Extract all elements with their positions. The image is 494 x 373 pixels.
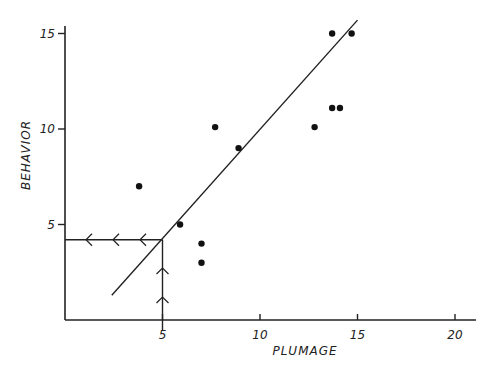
y-tick-label: 15 bbox=[40, 27, 55, 41]
y-axis-label: BEHAVIOR bbox=[19, 120, 33, 190]
data-point bbox=[235, 145, 241, 151]
data-point bbox=[329, 105, 335, 111]
y-ticks: 51015 bbox=[40, 27, 65, 232]
data-point bbox=[329, 30, 335, 36]
data-point bbox=[311, 124, 317, 130]
data-point bbox=[198, 240, 204, 246]
x-tick-label: 5 bbox=[159, 328, 167, 342]
data-point bbox=[198, 260, 204, 266]
x-ticks: 5101520 bbox=[159, 314, 463, 342]
x-axis-label: PLUMAGE bbox=[272, 344, 337, 358]
x-tick-label: 20 bbox=[447, 328, 463, 342]
scatter-chart: 5101520 51015 PLUMAGE BEHAVIOR bbox=[0, 0, 494, 373]
regression-line bbox=[112, 20, 358, 295]
data-point bbox=[212, 124, 218, 130]
data-point bbox=[348, 30, 354, 36]
data-point bbox=[177, 221, 183, 227]
x-tick-label: 10 bbox=[252, 328, 268, 342]
data-point bbox=[136, 183, 142, 189]
data-point bbox=[337, 105, 343, 111]
axes bbox=[65, 26, 476, 320]
y-tick-label: 5 bbox=[47, 218, 55, 232]
y-tick-label: 10 bbox=[40, 122, 56, 136]
x-tick-label: 15 bbox=[350, 328, 365, 342]
